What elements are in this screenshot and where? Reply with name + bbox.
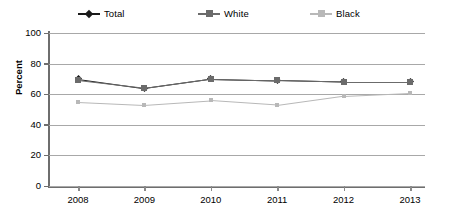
x-axis-tick — [78, 186, 80, 191]
series-line-segment — [211, 100, 277, 106]
y-axis-tick-label: 20 — [7, 149, 41, 160]
legend-item-total: Total — [78, 6, 125, 22]
x-axis-tick-label: 2013 — [385, 194, 435, 205]
x-axis-tick — [344, 186, 346, 191]
legend-label-total: Total — [104, 9, 125, 19]
data-point — [407, 79, 413, 85]
data-point — [208, 76, 214, 82]
data-point — [76, 100, 80, 104]
series-line-segment — [144, 79, 211, 89]
data-point — [342, 94, 346, 98]
series-line-segment — [211, 79, 277, 82]
series-line-segment — [144, 100, 210, 106]
series-line-segment — [78, 102, 144, 106]
data-point — [274, 77, 280, 83]
series-layer — [49, 33, 425, 186]
legend-swatch-black-icon — [310, 9, 332, 19]
x-axis-tick — [277, 186, 279, 191]
data-point — [275, 103, 279, 107]
series-line-segment — [344, 82, 410, 83]
series-line-segment — [277, 80, 343, 83]
data-point — [408, 91, 412, 95]
x-axis-tick-label: 2012 — [319, 194, 369, 205]
x-axis-tick-label: 2008 — [53, 194, 103, 205]
chart-legend: Total White Black — [0, 6, 450, 22]
x-axis-tick-label: 2010 — [186, 194, 236, 205]
x-axis-tick-label: 2009 — [119, 194, 169, 205]
series-line-segment — [344, 93, 410, 97]
x-axis-tick — [211, 186, 213, 191]
data-point — [75, 77, 81, 83]
legend-item-black: Black — [310, 6, 360, 22]
legend-label-black: Black — [336, 9, 360, 19]
plot-area: 020406080100 Percent — [49, 33, 425, 186]
data-point — [142, 103, 146, 107]
chart-container: Total White Black 020406080100 Percent 2… — [0, 0, 450, 217]
y-axis-title: Percent — [13, 60, 24, 95]
legend-label-white: White — [224, 9, 249, 19]
y-axis-tick-label: 0 — [7, 180, 41, 191]
x-axis-tick — [144, 186, 146, 191]
data-point — [341, 79, 347, 85]
data-point — [141, 85, 147, 91]
y-axis-tick-label: 40 — [7, 119, 41, 130]
legend-swatch-total-icon — [78, 9, 100, 19]
legend-item-white: White — [198, 6, 249, 22]
legend-swatch-white-icon — [198, 9, 220, 19]
series-line-segment — [277, 96, 344, 106]
x-axis-tick-label: 2011 — [252, 194, 302, 205]
y-axis-tick-label: 100 — [7, 27, 41, 38]
data-point — [209, 98, 213, 102]
x-axis-tick — [410, 186, 412, 191]
